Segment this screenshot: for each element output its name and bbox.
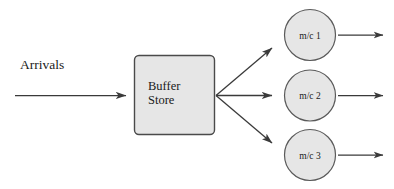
arrow-buffer-to-mc1 xyxy=(216,48,272,96)
arrivals-label: Arrivals xyxy=(20,57,64,72)
buffer-store-label-line2: Store xyxy=(148,93,175,107)
buffer-store-box xyxy=(135,56,215,135)
machine-label-3: m/c 3 xyxy=(299,151,321,161)
diagram-canvas: Arrivals Buffer Store m/c 1 m/c 2 m/c 3 xyxy=(0,0,394,189)
arrow-buffer-to-mc3 xyxy=(216,96,272,144)
machine-label-1: m/c 1 xyxy=(299,31,321,41)
buffer-store-label-line1: Buffer xyxy=(148,79,181,93)
machine-label-2: m/c 2 xyxy=(299,91,321,101)
flow-diagram: Arrivals Buffer Store m/c 1 m/c 2 m/c 3 xyxy=(0,0,394,189)
